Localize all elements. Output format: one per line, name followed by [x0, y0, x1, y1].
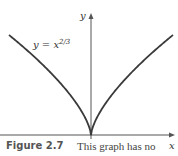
y-axis-arrow-icon [89, 13, 94, 19]
x-axis-arrow-icon [169, 133, 175, 138]
figure-caption-text: This graph has no [77, 140, 156, 152]
curve-label-base: y = x [32, 39, 59, 50]
curve-label-exponent: 2/3 [58, 38, 71, 46]
figure-label: Figure 2.7 [6, 140, 63, 151]
curve-label: y = x2/3 [32, 38, 71, 50]
graph: x y y = x2/3 [0, 0, 178, 156]
y-axis-label: y [79, 10, 86, 21]
x-axis-label: x [169, 140, 175, 151]
